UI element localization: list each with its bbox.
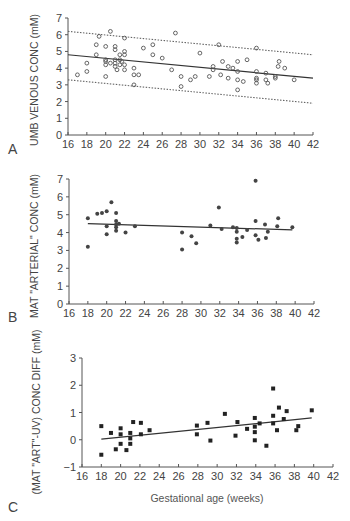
data-point	[223, 412, 227, 416]
data-point	[235, 420, 239, 424]
data-point	[86, 245, 90, 249]
data-point	[105, 224, 109, 228]
data-point	[137, 73, 141, 77]
data-point	[240, 235, 244, 239]
data-point	[195, 432, 199, 436]
data-point	[94, 43, 98, 47]
data-point	[141, 46, 145, 50]
y-tick-label: 2	[70, 379, 76, 391]
data-point	[119, 432, 123, 436]
data-point	[266, 81, 270, 85]
data-point	[235, 240, 239, 244]
y-tick-label: 0	[57, 298, 63, 310]
x-tick-label: 22	[134, 470, 146, 482]
data-point	[109, 61, 113, 65]
data-point	[104, 45, 108, 49]
data-point	[94, 53, 98, 57]
data-point	[276, 65, 280, 69]
x-tick-label: 42	[327, 470, 339, 482]
data-point	[124, 231, 128, 235]
data-point	[208, 439, 212, 443]
data-point	[105, 232, 109, 236]
data-point	[275, 428, 279, 432]
data-point	[253, 425, 257, 429]
x-tick-label: 34	[250, 470, 262, 482]
data-point	[292, 78, 296, 82]
data-point	[133, 224, 137, 228]
y-tick-label: 3	[56, 79, 62, 91]
data-point	[254, 179, 258, 183]
data-point	[114, 211, 118, 215]
panel-letter-b: B	[8, 309, 17, 325]
data-point	[160, 56, 164, 60]
data-point	[99, 424, 103, 428]
data-point	[195, 424, 199, 428]
data-point	[236, 88, 240, 92]
data-point	[180, 248, 184, 252]
data-point	[266, 230, 270, 234]
data-point	[283, 66, 287, 70]
panel-b-chart: 161820222426283032343638404201234567	[57, 173, 320, 319]
data-point	[117, 222, 121, 226]
data-point	[123, 68, 127, 72]
x-tick-label: 42	[308, 307, 320, 319]
x-tick-label: 16	[76, 470, 88, 482]
data-point	[220, 227, 224, 231]
panel-c-chart: 1618202224262830323436384042−10123	[63, 352, 339, 482]
x-tick-label: 26	[156, 138, 168, 150]
y-tick-label: 0	[56, 129, 62, 141]
data-point	[123, 63, 127, 67]
panel-b-y-axis-title: MAT "ARTERIAL" CONC (mM)	[28, 174, 40, 318]
data-point	[124, 448, 128, 452]
data-point	[285, 409, 289, 413]
data-point	[258, 421, 262, 425]
data-point	[245, 228, 249, 232]
data-point	[104, 75, 108, 79]
y-tick-label: 4	[57, 227, 63, 239]
x-tick-label: 26	[157, 307, 169, 319]
data-point	[97, 34, 101, 38]
data-point	[151, 53, 155, 57]
x-tick-label: 32	[214, 307, 226, 319]
data-point	[206, 421, 210, 425]
x-tick-label: 38	[269, 138, 281, 150]
panel-letter-a: A	[8, 141, 18, 157]
x-tick-label: 40	[289, 307, 301, 319]
data-point	[109, 200, 113, 204]
y-tick-label: 5	[56, 45, 62, 57]
y-tick-label: 1	[57, 280, 63, 292]
x-tick-label: 30	[194, 138, 206, 150]
y-tick-label: −1	[63, 461, 76, 473]
data-point	[128, 436, 132, 440]
data-point	[114, 229, 118, 233]
panel-c-y-axis-title: (MAT "ART"-UV) CONC DIFF (mM)	[30, 330, 42, 495]
data-point	[271, 387, 275, 391]
data-point	[245, 427, 249, 431]
y-tick-label: 5	[57, 209, 63, 221]
data-point	[277, 406, 281, 410]
data-point	[105, 209, 109, 213]
panel-a-y-axis-title: UMB VENOUS CONC (mM)	[28, 14, 40, 146]
data-point	[208, 223, 212, 227]
data-point	[95, 212, 99, 216]
x-tick-label: 30	[195, 307, 207, 319]
x-tick-label: 16	[62, 138, 74, 150]
y-tick-label: 3	[57, 244, 63, 256]
prediction-band-line	[68, 80, 313, 103]
data-point	[282, 417, 286, 421]
data-point	[139, 432, 143, 436]
data-point	[132, 73, 136, 77]
data-point	[151, 43, 155, 47]
data-point	[148, 428, 152, 432]
data-point	[100, 211, 104, 215]
data-point	[226, 76, 230, 80]
data-point	[179, 85, 183, 89]
data-point	[296, 424, 300, 428]
data-point	[235, 230, 239, 234]
y-tick-label: 7	[56, 12, 62, 24]
data-point	[253, 438, 257, 442]
data-point	[290, 225, 294, 229]
x-tick-label: 38	[270, 307, 282, 319]
data-point	[277, 60, 281, 64]
data-point	[226, 65, 230, 69]
